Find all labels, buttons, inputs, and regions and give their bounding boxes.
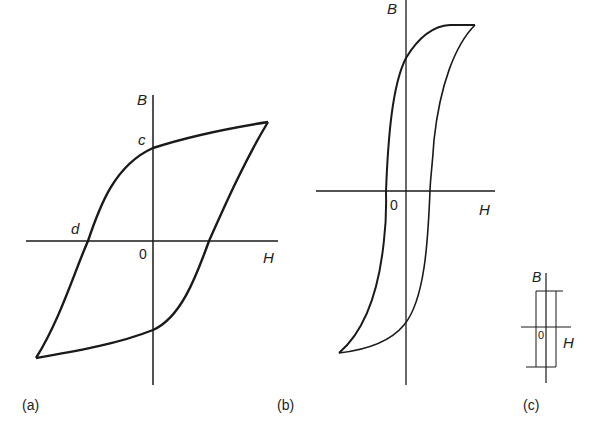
panel-b-lower-branch xyxy=(339,25,475,353)
panel-b: B 0 H (b) xyxy=(277,0,495,413)
panel-c: B 0 H (c) xyxy=(521,269,574,413)
panel-b-upper-branch xyxy=(339,25,475,353)
hysteresis-figure: B c d 0 H (a) B 0 H (b) B 0 H (c) xyxy=(0,0,593,441)
panel-a-lower-branch xyxy=(36,122,268,358)
panel-b-caption: (b) xyxy=(277,397,294,413)
panel-b-y-label: B xyxy=(387,0,397,17)
panel-a-caption: (a) xyxy=(22,397,39,413)
panel-a: B c d 0 H (a) xyxy=(22,91,278,413)
panel-c-caption: (c) xyxy=(523,397,539,413)
panel-a-upper-branch xyxy=(36,122,268,358)
panel-a-y-label: B xyxy=(137,91,147,108)
panel-c-y-label: B xyxy=(532,269,541,285)
panel-b-origin-label: 0 xyxy=(390,197,398,213)
panel-b-x-label: H xyxy=(479,201,490,218)
panel-a-point-d: d xyxy=(71,220,80,237)
panel-a-point-c: c xyxy=(138,131,146,148)
panel-c-origin-label: 0 xyxy=(538,329,544,341)
panel-a-origin-label: 0 xyxy=(139,246,147,262)
panel-a-x-label: H xyxy=(263,249,274,266)
panel-c-x-label: H xyxy=(563,334,574,351)
